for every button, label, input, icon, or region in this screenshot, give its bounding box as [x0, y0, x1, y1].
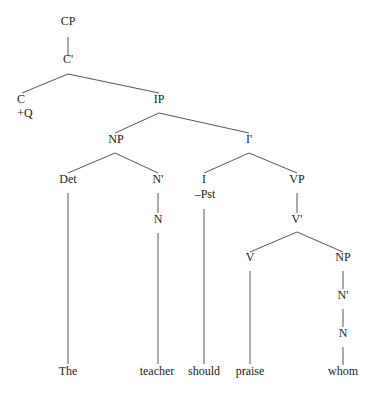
tree-branch	[297, 232, 343, 252]
tree-node-label: N	[154, 213, 163, 226]
tree-node-label: V	[246, 251, 255, 264]
terminal-word: teacher	[140, 365, 175, 378]
tree-node-label: I'	[246, 133, 252, 146]
tree-node-label: VP	[289, 173, 304, 186]
tree-node-label: +Q	[17, 107, 32, 120]
tree-branch	[68, 74, 159, 93]
tree-node-label: I	[202, 173, 206, 186]
tree-node-label: Det	[59, 173, 76, 186]
tree-branch	[115, 113, 159, 133]
tree-branch	[250, 232, 297, 252]
tree-node-label: NP	[335, 251, 350, 264]
tree-branch	[22, 74, 68, 93]
tree-node-label: –Pst	[195, 188, 216, 201]
tree-node-label: CP	[61, 15, 76, 28]
tree-node-label: N	[339, 327, 348, 340]
tree-node-label: N'	[338, 289, 349, 302]
tree-node-label: NP	[108, 133, 123, 146]
terminal-word: whom	[328, 365, 358, 378]
terminal-word: The	[59, 365, 78, 378]
tree-node-label: V'	[292, 213, 303, 226]
syntax-tree-diagram: CPC'C+QIPNPI'DetN'I–PstVPNV'VNPN'NThetea…	[0, 0, 379, 400]
terminal-word: praise	[236, 365, 265, 378]
tree-node-label: N'	[153, 173, 164, 186]
tree-node-label: C'	[63, 53, 73, 66]
tree-branch	[249, 153, 297, 173]
tree-branches	[0, 0, 379, 400]
terminal-word: should	[188, 365, 220, 378]
tree-node-label: C	[17, 93, 25, 106]
tree-branch	[115, 153, 158, 173]
tree-branch	[204, 153, 249, 173]
tree-branch	[159, 113, 249, 133]
tree-branch	[68, 153, 115, 173]
tree-node-label: IP	[154, 93, 165, 106]
